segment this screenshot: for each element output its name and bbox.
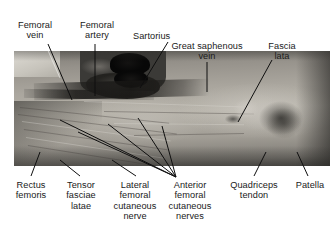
label-femoral-vein: Femoral vein [4,20,66,41]
leader-patella [297,152,308,176]
label-sartorius: Sartorius [133,31,170,41]
label-tensor-fasciae-latae: Tensor fasciae latae [56,180,106,211]
label-anterior-femoral-cutaneous-nerves: Anterior femoral cutaneous nerves [158,180,222,222]
leader-rectus-femoris [31,152,40,176]
leader-fascia-lata [238,60,272,122]
leader-lateral-femoral-cutaneous-nerve [112,160,136,176]
anatomy-figure: Femoral vein Femoral artery Sartorius Gr… [0,0,336,231]
label-fascia-lata: Fascia lata [256,41,308,62]
label-rectus-femoris: Rectus femoris [2,180,60,201]
leader-quadriceps-tendon [254,152,266,176]
leader-anterior-femoral-cutaneous-nerve-5 [162,126,176,177]
label-great-saphenous-vein: Great saphenous vein [159,41,255,62]
label-quadriceps-tendon: Quadriceps tendon [221,180,287,201]
label-femoral-artery: Femoral artery [66,20,128,41]
label-lateral-femoral-cutaneous-nerve: Lateral femoral cutaneous nerve [104,180,166,222]
leader-anterior-femoral-cutaneous-nerve-1 [60,120,176,177]
leader-femoral-vein [48,44,72,100]
leader-femoral-vein-halo [46,46,60,78]
label-patella: Patella [286,180,334,190]
leader-tensor-fasciae-latae [60,160,80,176]
